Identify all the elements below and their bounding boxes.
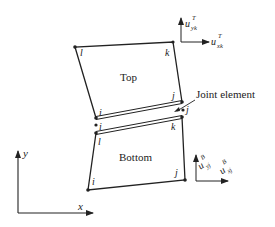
joint-element-label: Joint element [196, 88, 255, 100]
svg-text:B: B [220, 158, 227, 166]
bottom-node-i: i [92, 176, 95, 187]
u-yk-top-label: u yk T [185, 14, 197, 31]
bottom-displacement-arrows: u yj B u xj B [193, 153, 233, 181]
svg-text:T: T [218, 32, 222, 39]
svg-text:u: u [211, 36, 216, 47]
u-xj-bottom-label: u xj B [215, 158, 234, 178]
bottom-element-label: Bottom [119, 151, 152, 163]
joint-element-diagram: l k j i Top i j Joint element l k i j Bo… [0, 0, 275, 227]
bottom-node-k: k [171, 121, 176, 132]
x-axis-label: x [77, 200, 83, 212]
svg-text:xk: xk [216, 42, 223, 49]
joint-node-i: i [99, 121, 102, 132]
top-displacement-arrows: u yk T u xk T [181, 14, 223, 49]
svg-text:T: T [192, 14, 196, 21]
u-xk-top-label: u xk T [211, 32, 223, 49]
global-axes: y x [18, 147, 93, 213]
top-node-l: l [80, 47, 83, 58]
svg-text:B: B [199, 153, 206, 161]
top-node-j: j [170, 90, 175, 101]
svg-text:yk: yk [190, 24, 197, 31]
y-axis-label: y [22, 147, 28, 159]
bottom-node-l: l [98, 136, 101, 147]
bottom-node-j: j [173, 167, 178, 178]
top-element-label: Top [120, 71, 137, 83]
top-node-k: k [165, 47, 170, 58]
svg-text:u: u [185, 18, 190, 29]
